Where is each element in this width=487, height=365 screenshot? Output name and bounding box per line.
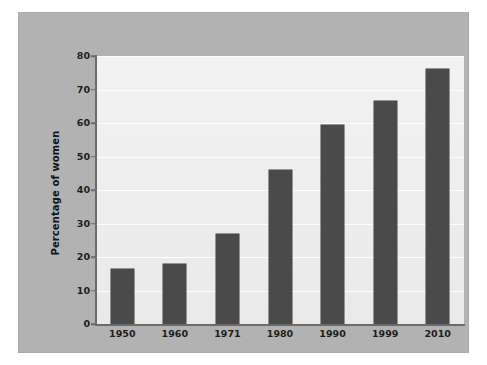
gridline: [96, 90, 464, 91]
y-axis-tick-label: 20: [64, 252, 90, 262]
y-axis-tick-mark: [91, 55, 95, 57]
x-axis-tick-label: 1990: [319, 328, 345, 339]
bar: [111, 269, 134, 324]
x-axis-tick-label: 1971: [214, 328, 240, 339]
y-axis-tick-label: 10: [64, 286, 90, 296]
y-axis-tick-mark: [91, 256, 95, 258]
y-axis-tick-label: 80: [64, 51, 90, 61]
gridline: [96, 157, 464, 158]
x-axis-tick-label: 1999: [372, 328, 398, 339]
y-axis-tick-mark: [91, 122, 95, 124]
bar: [163, 264, 186, 324]
x-axis-tick-label: 1960: [162, 328, 188, 339]
y-axis-tick-label: 60: [64, 118, 90, 128]
bar: [269, 170, 292, 324]
x-axis-line: [95, 324, 465, 326]
y-axis-tick-mark: [91, 89, 95, 91]
y-axis-tick-label: 40: [64, 185, 90, 195]
y-axis-tick-mark: [91, 290, 95, 292]
y-axis-tick-label: 50: [64, 152, 90, 162]
gridline: [96, 123, 464, 124]
x-axis-tick-label: 2010: [424, 328, 450, 339]
x-axis-ticks: 1950196019711980199019992010: [96, 328, 464, 350]
y-axis-ticks: 01020304050607080: [62, 12, 90, 365]
chart-figure: Percentage of women 01020304050607080 19…: [0, 0, 487, 365]
y-axis-tick-mark: [91, 189, 95, 191]
x-axis-tick-label: 1980: [267, 328, 293, 339]
y-axis-tick-mark: [91, 223, 95, 225]
y-axis-tick-label: 30: [64, 219, 90, 229]
bar: [216, 234, 239, 324]
y-axis-tick-mark: [91, 156, 95, 158]
chart-panel: Percentage of women 01020304050607080 19…: [18, 12, 469, 353]
y-axis-tick-label: 70: [64, 85, 90, 95]
y-axis-title: Percentage of women: [50, 136, 61, 256]
bar: [321, 125, 344, 324]
bar: [374, 101, 397, 324]
plot-area: [96, 56, 464, 324]
gridline: [96, 56, 464, 57]
x-axis-tick-label: 1950: [109, 328, 135, 339]
y-axis-tick-label: 0: [64, 319, 90, 329]
y-axis-line: [95, 55, 97, 325]
y-axis-tick-mark: [91, 323, 95, 325]
bar: [426, 69, 449, 324]
